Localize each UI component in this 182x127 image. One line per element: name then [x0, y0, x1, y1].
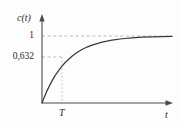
- x-axis-arrowhead: [166, 100, 174, 105]
- x-tick-label-time-constant: T: [59, 108, 65, 118]
- y-tick-label-one: 1: [12, 31, 34, 41]
- y-axis-label: c(t): [17, 13, 31, 23]
- step-response-figure: c(t) t 1 0,632 T: [0, 0, 182, 127]
- y-tick-label-time-constant: 0,632: [0, 52, 34, 62]
- y-axis-arrowhead: [39, 14, 44, 22]
- x-axis-label: t: [165, 110, 168, 120]
- response-curve: [42, 36, 172, 103]
